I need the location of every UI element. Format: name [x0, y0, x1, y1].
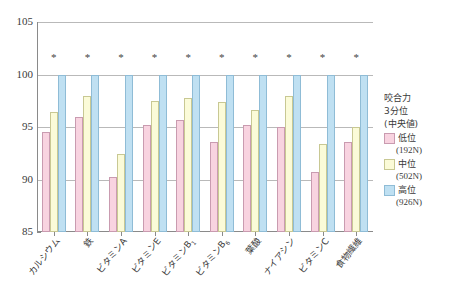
legend-item-high[interactable]: 高位: [384, 184, 448, 196]
significance-asterisk: *: [37, 52, 71, 63]
bar-high[interactable]: [293, 75, 301, 233]
legend-title-line3: (中央値): [384, 118, 448, 130]
bar-high[interactable]: [192, 75, 200, 233]
bar-mid[interactable]: [251, 110, 259, 232]
bar-low[interactable]: [277, 127, 285, 232]
significance-asterisk: *: [239, 52, 273, 63]
legend-swatch-low-icon: [384, 133, 395, 144]
bar-low[interactable]: [311, 172, 319, 232]
bar-high[interactable]: [91, 75, 99, 233]
x-axis-label: 食物繊維: [334, 236, 364, 271]
y-tick-label: 85: [0, 226, 33, 237]
significance-asterisk: *: [205, 52, 239, 63]
bar-high[interactable]: [58, 75, 66, 233]
significance-asterisk: *: [272, 52, 306, 63]
bar-mid[interactable]: [117, 154, 125, 232]
legend-swatch-mid-icon: [384, 159, 395, 170]
significance-asterisk: *: [104, 52, 138, 63]
x-label-cell: ビタミンB6: [205, 234, 239, 304]
x-axis-label: 葉酸: [244, 236, 263, 256]
y-tick-label: 90: [0, 174, 33, 185]
bar-low[interactable]: [75, 117, 83, 233]
bar-high[interactable]: [159, 75, 167, 233]
significance-asterisk: *: [138, 52, 172, 63]
bar-groups: **********: [37, 22, 373, 232]
bar-group: *: [306, 22, 340, 232]
bar-low[interactable]: [344, 142, 352, 232]
significance-asterisk: *: [306, 52, 340, 63]
bar-mid[interactable]: [285, 96, 293, 233]
chart-container: 105 100 95 90 85 ********** カルシウム鉄ビタミンAビ…: [0, 0, 450, 304]
bar-mid[interactable]: [184, 98, 192, 232]
y-tick-label: 95: [0, 121, 33, 132]
legend: 咬合力 3分位 (中央値) 低位 (192N) 中位 (502N) 高位 (92…: [384, 92, 448, 208]
significance-asterisk: *: [71, 52, 105, 63]
legend-label-mid: 中位: [398, 158, 416, 170]
bar-mid[interactable]: [83, 96, 91, 233]
y-axis: 105 100 95 90 85: [0, 22, 33, 232]
x-axis-label: カルシウム: [26, 236, 62, 278]
legend-title-line2: 3分位: [384, 105, 448, 117]
bar-mid[interactable]: [352, 127, 360, 232]
legend-sublabel-mid: (502N): [396, 170, 448, 182]
bar-mid[interactable]: [319, 144, 327, 232]
bar-mid[interactable]: [50, 112, 58, 232]
legend-title-line1: 咬合力: [384, 92, 448, 104]
significance-asterisk: *: [339, 52, 373, 63]
bar-low[interactable]: [109, 177, 117, 232]
legend-label-low: 低位: [398, 132, 416, 144]
bar-low[interactable]: [143, 125, 151, 232]
bar-high[interactable]: [226, 75, 234, 233]
bar-group: *: [37, 22, 71, 232]
bar-low[interactable]: [176, 120, 184, 232]
x-axis-label: 鉄: [82, 236, 95, 249]
bar-group: *: [205, 22, 239, 232]
bar-low[interactable]: [42, 132, 50, 232]
legend-item-low[interactable]: 低位: [384, 132, 448, 144]
bar-group: *: [71, 22, 105, 232]
bar-group: *: [272, 22, 306, 232]
legend-item-mid[interactable]: 中位: [384, 158, 448, 170]
bar-group: *: [138, 22, 172, 232]
x-label-cell: 食物繊維: [339, 234, 373, 304]
legend-sublabel-low: (192N): [396, 144, 448, 156]
bar-group: *: [339, 22, 373, 232]
y-tick-label: 100: [0, 69, 33, 80]
y-tick-mark: [37, 232, 41, 233]
y-tick-label: 105: [0, 16, 33, 27]
bar-mid[interactable]: [151, 101, 159, 232]
bar-mid[interactable]: [218, 102, 226, 232]
bar-group: *: [104, 22, 138, 232]
legend-sublabel-high: (926N): [396, 196, 448, 208]
bar-high[interactable]: [125, 75, 133, 233]
bar-high[interactable]: [327, 75, 335, 233]
x-label-cell: カルシウム: [37, 234, 71, 304]
significance-asterisk: *: [171, 52, 205, 63]
bar-low[interactable]: [243, 125, 251, 232]
legend-swatch-high-icon: [384, 185, 395, 196]
x-axis-labels: カルシウム鉄ビタミンAビタミンEビタミンB1ビタミンB6葉酸ナイアシンビタミンC…: [37, 234, 373, 304]
bar-group: *: [239, 22, 273, 232]
x-label-cell: ビタミンC: [306, 234, 340, 304]
bar-group: *: [171, 22, 205, 232]
bar-high[interactable]: [360, 75, 368, 233]
bar-low[interactable]: [210, 142, 218, 232]
bar-high[interactable]: [259, 75, 267, 233]
legend-label-high: 高位: [398, 184, 416, 196]
